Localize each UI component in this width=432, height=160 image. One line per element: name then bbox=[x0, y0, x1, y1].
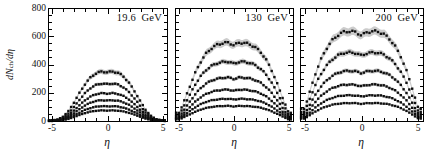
x-axis-title-panel-2: η bbox=[224, 136, 244, 148]
x-tick-label: 0 bbox=[225, 123, 243, 134]
y-tick-label: 800 bbox=[18, 3, 46, 14]
y-axis-title: dNch/dη bbox=[4, 18, 17, 112]
panel-2 bbox=[175, 9, 294, 122]
y-tick-label: 600 bbox=[18, 31, 46, 42]
y-axis-title-N: N bbox=[4, 68, 15, 75]
x-tick-label: -5 bbox=[170, 123, 188, 134]
y-axis-title-d: d bbox=[4, 75, 15, 80]
y-tick-label: 0 bbox=[18, 116, 46, 127]
y-tick-label: 200 bbox=[18, 87, 46, 98]
pseudorapidity-figure: dNch/dη 19.6 GeV 130 GeV 200 GeV η η η -… bbox=[0, 0, 432, 160]
y-axis-title-slash-d: /d bbox=[4, 54, 15, 62]
energy-label-19.6-gev: 19.6 GeV bbox=[62, 12, 162, 23]
y-tick-label: 400 bbox=[18, 59, 46, 70]
y-axis-title-eta: η bbox=[4, 49, 15, 54]
data-series-6 bbox=[175, 105, 292, 121]
panel-3 bbox=[300, 9, 424, 122]
x-axis-title-panel-1: η bbox=[97, 136, 117, 148]
x-axis-title-panel-3: η bbox=[351, 136, 371, 148]
axis-ticks bbox=[49, 9, 167, 121]
energy-label-200-gev: 200 GeV bbox=[318, 12, 418, 23]
panel-1 bbox=[48, 9, 168, 123]
y-axis-title-sub-ch: ch bbox=[7, 62, 15, 69]
x-tick-label: -5 bbox=[296, 123, 314, 134]
x-tick-label: 0 bbox=[353, 123, 371, 134]
x-tick-label: 0 bbox=[99, 123, 117, 134]
energy-label-130-gev: 130 GeV bbox=[188, 12, 288, 23]
data-series-5 bbox=[175, 97, 292, 120]
data-series-3 bbox=[175, 76, 292, 118]
x-tick-label: 5 bbox=[409, 123, 427, 134]
panel-frame bbox=[49, 9, 168, 122]
